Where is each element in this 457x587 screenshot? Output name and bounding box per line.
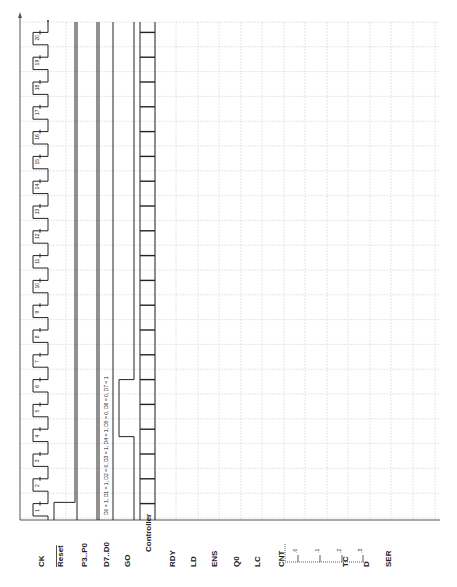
cycle-number: 18 bbox=[34, 84, 40, 90]
signal-label: Controller bbox=[144, 514, 153, 552]
cycle-number: 15 bbox=[34, 159, 40, 165]
signal-label: ENS bbox=[210, 550, 219, 567]
cycle-number: 17 bbox=[34, 109, 40, 115]
cycle-number: 5 bbox=[34, 410, 40, 413]
signal-labels: CKResetP3..P0D7..D0GOControllerRDYLDENSQ… bbox=[37, 514, 393, 567]
grid bbox=[20, 22, 440, 520]
signal-label: LD bbox=[189, 556, 198, 567]
signal-label: RDY bbox=[168, 549, 177, 567]
signal-label: CK bbox=[37, 555, 46, 567]
cnt-state-label: .0 bbox=[292, 549, 298, 553]
signal-label: SER bbox=[384, 550, 393, 567]
cycle-number: 2 bbox=[34, 484, 40, 487]
cycle-number: 4 bbox=[34, 434, 40, 437]
cycle-number: 10 bbox=[34, 283, 40, 289]
cycle-number: 14 bbox=[34, 184, 40, 190]
cnt-state-label: .2 bbox=[336, 549, 342, 553]
cycle-number: 8 bbox=[34, 335, 40, 338]
cnt-state-label: .1 bbox=[314, 549, 320, 553]
cycle-number: 1 bbox=[34, 509, 40, 512]
cycle-number: 20 bbox=[34, 35, 40, 41]
signal-label: GO bbox=[123, 555, 132, 567]
data-annotation: D0 = 1, D1 = 1, D2 = 0, D3 = 1, D4 = 1, … bbox=[103, 376, 109, 515]
signal-label: Reset bbox=[56, 545, 65, 567]
signal-label: LC bbox=[253, 556, 262, 567]
cycle-number: 9 bbox=[34, 310, 40, 313]
signal-label: D7..D0 bbox=[102, 542, 111, 567]
cycle-number: 13 bbox=[34, 208, 40, 214]
cycle-number: 6 bbox=[34, 385, 40, 388]
cycle-number: 19 bbox=[34, 60, 40, 66]
cycle-number: 12 bbox=[34, 233, 40, 239]
cycle-number: 11 bbox=[34, 258, 40, 263]
signal-label: Q0 bbox=[232, 556, 241, 567]
timing-diagram: 1234567891011121314151617181920 D0 = 1, … bbox=[0, 0, 457, 587]
signal-label: P3..P0 bbox=[80, 542, 89, 567]
cycle-number: 7 bbox=[34, 360, 40, 363]
cycle-number: 16 bbox=[34, 134, 40, 140]
cnt-state-label: .3 bbox=[357, 549, 363, 553]
cycle-number: 3 bbox=[34, 459, 40, 462]
